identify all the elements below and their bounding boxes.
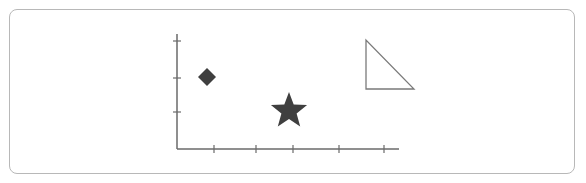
diamond-shape	[198, 68, 216, 86]
diagram-canvas	[0, 0, 586, 183]
star-shape	[271, 92, 307, 126]
triangle-shape	[366, 40, 414, 89]
axes	[173, 34, 399, 153]
shapes	[198, 40, 414, 126]
